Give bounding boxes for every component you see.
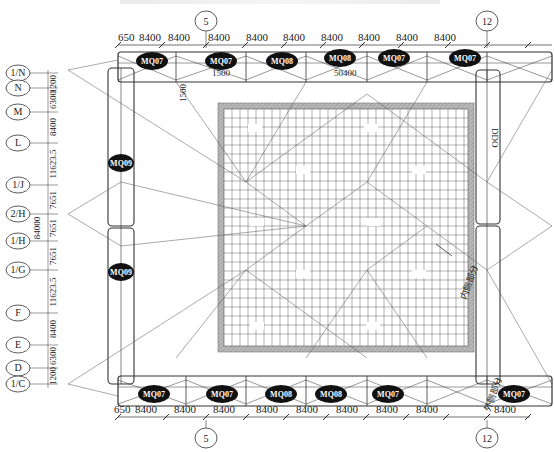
dim-bottom-9: 8400 [494, 403, 517, 415]
module-label: MQ07 [141, 57, 163, 66]
axis-E: E [15, 339, 21, 350]
dim-top-8: 8400 [396, 31, 419, 43]
dim-bottom-7: 8400 [376, 403, 399, 415]
dim-left: 11623.5 [48, 149, 58, 178]
module-label: MQ08 [320, 390, 342, 399]
dim-bottom-4: 8400 [256, 403, 279, 415]
dim-left: 8400 [48, 118, 58, 137]
bottom-modules: MQ07 MQ07 MQ08 MQ08 MQ07 MQ07 [138, 385, 530, 403]
module-label: MQ08 [329, 54, 351, 63]
top-dimension-chain: 650 8400 8400 8400 8400 8400 8400 8400 8… [115, 31, 552, 48]
dim-50400: 50400 [334, 68, 357, 78]
bottom-axis-bubbles: 5 12 [195, 420, 498, 448]
axis-1J: 1/J [12, 179, 24, 190]
axis-bubble-top-5: 5 [204, 16, 209, 27]
axis-bubble-bottom-5: 5 [204, 433, 209, 444]
module-label: MQ09 [110, 159, 132, 168]
dim-bottom-6: 8400 [336, 403, 359, 415]
dim-bottom-5: 8400 [296, 403, 319, 415]
dim-84000: 84000 [32, 216, 42, 239]
dim-top-7: 8400 [358, 31, 381, 43]
module-label: MQ07 [503, 390, 525, 399]
dim-left: 6300 [48, 91, 58, 110]
dim-top-1: 8400 [139, 31, 162, 43]
dim-1500-vertical: 1500 [178, 84, 188, 103]
module-label: MQ08 [271, 57, 293, 66]
dim-bottom-8: 8400 [416, 403, 439, 415]
dim-left: 1200 [48, 75, 58, 94]
axis-L: L [15, 137, 21, 148]
dim-bottom-1: 8400 [135, 403, 158, 415]
dim-left: 7651 [48, 247, 58, 265]
axis-bubble-bottom-12: 12 [482, 433, 492, 444]
dim-top-2: 8400 [168, 31, 191, 43]
module-label: MQ07 [383, 54, 405, 63]
dim-bottom-0: 650 [114, 403, 131, 415]
axis-bubble-top-12: 12 [482, 16, 492, 27]
dim-left: 11623.5 [48, 277, 58, 306]
structural-plan-drawing: 5 12 650 8400 8400 8400 8400 8400 8400 8… [0, 0, 554, 452]
dim-1500-top: 1500 [212, 68, 231, 78]
right-side-label: DDO [490, 128, 500, 148]
dim-top-5: 8400 [283, 31, 306, 43]
module-label: MQ09 [110, 268, 132, 277]
dim-left: 8400 [48, 320, 58, 339]
central-grid [218, 103, 474, 352]
axis-1N: 1/N [11, 67, 26, 78]
axis-N: N [14, 82, 21, 93]
dim-top-4: 8400 [246, 31, 269, 43]
axis-1C: 1/C [11, 378, 26, 389]
dim-bottom-2: 8400 [174, 403, 197, 415]
right-truss [476, 70, 500, 384]
dim-left: 1200 [48, 367, 58, 386]
module-label: MQ07 [210, 57, 232, 66]
dim-top-0: 650 [118, 31, 135, 43]
axis-F: F [15, 307, 21, 318]
dim-left: 6300 [48, 347, 58, 366]
left-truss [108, 68, 134, 384]
dim-top-3: 8400 [208, 31, 231, 43]
dim-top-9: 8400 [434, 31, 457, 43]
axis-M: M [14, 106, 23, 117]
axis-2H: 2/H [11, 208, 26, 219]
module-label: MQ07 [211, 390, 233, 399]
dim-bottom-3: 8400 [213, 403, 236, 415]
dim-top-6: 8400 [321, 31, 344, 43]
axis-D: D [14, 362, 21, 373]
module-label: MQ07 [143, 390, 165, 399]
dim-left: 7651 [48, 219, 58, 237]
axis-1H: 1/H [11, 235, 26, 246]
module-label: MQ08 [270, 390, 292, 399]
module-label: MQ07 [454, 54, 476, 63]
left-dimensions: 1200 6300 8400 11623.5 7651 7651 7651 11… [32, 75, 58, 386]
module-label: MQ07 [377, 390, 399, 399]
dim-left: 7651 [48, 191, 58, 209]
axis-1G: 1/G [11, 264, 26, 275]
